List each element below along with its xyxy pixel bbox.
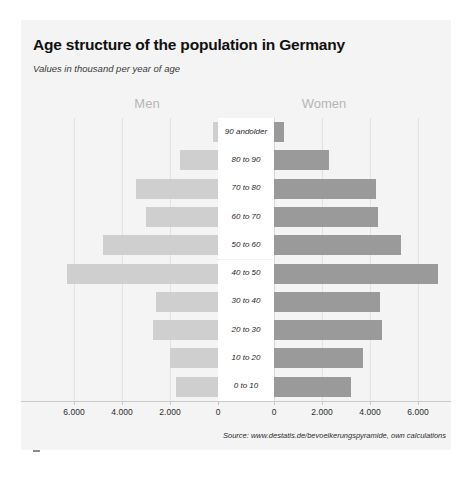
age-band-label: 10 to 20 [218,344,274,372]
age-band-label: 90 andolder [218,118,274,146]
pyramid-row: 40 to 50 [21,260,451,288]
x-axis-tick-label: 4.000 [111,407,132,417]
pyramid-row: 0 to 10 [21,373,451,401]
age-band-label: 0 to 10 [218,373,274,401]
population-pyramid-figure: Age structure of the population in Germa… [0,0,472,491]
x-axis-tick [274,401,275,405]
bar-women [274,377,351,397]
bar-men [67,264,218,284]
pyramid-row: 60 to 70 [21,203,451,231]
men-column-header: Men [134,96,159,111]
pyramid-row: 80 to 90 [21,146,451,174]
bar-men [180,150,218,170]
bar-women [274,292,380,312]
pyramid-row: 20 to 30 [21,316,451,344]
page-title: Age structure of the population in Germa… [33,36,345,54]
x-axis-line [21,401,451,402]
age-band-label: 20 to 30 [218,316,274,344]
bar-women [274,235,401,255]
x-axis-tick-label: 2.000 [311,407,332,417]
x-axis-tick [170,401,171,405]
x-axis-tick-label: 4.000 [359,407,380,417]
pyramid-row: 90 andolder [21,118,451,146]
x-axis-tick [370,401,371,405]
bar-men [136,179,218,199]
age-band-label: 50 to 60 [218,231,274,259]
bar-men [176,377,218,397]
bar-men [153,320,218,340]
pyramid-row: 70 to 80 [21,175,451,203]
x-axis-tick [122,401,123,405]
bar-men [156,292,218,312]
corner-mark [33,450,40,452]
x-axis-tick [74,401,75,405]
bar-women [274,264,438,284]
x-axis-tick-label: 0 [272,407,277,417]
age-band-label: 80 to 90 [218,146,274,174]
bar-women [274,348,363,368]
bar-women [274,320,382,340]
x-axis-tick [418,401,419,405]
x-axis-tick [218,401,219,405]
x-axis-tick-label: 6.000 [407,407,428,417]
age-band-label: 30 to 40 [218,288,274,316]
x-axis-tick [322,401,323,405]
age-band-label: 70 to 80 [218,175,274,203]
bar-women [274,179,376,199]
pyramid-row: 10 to 20 [21,344,451,372]
pyramid-row: 30 to 40 [21,288,451,316]
bar-women [274,150,329,170]
plot-area: 90 andolder80 to 9070 to 8060 to 7050 to… [21,118,451,401]
chart-subtitle: Values in thousand per year of age [33,63,180,74]
age-band-label: 40 to 50 [218,260,274,288]
bar-men [103,235,218,255]
x-axis-tick-label: 6.000 [63,407,84,417]
pyramid-row: 50 to 60 [21,231,451,259]
bar-men [146,207,218,227]
bar-women [274,207,378,227]
x-axis-tick-label: 0 [216,407,221,417]
bar-men [170,348,218,368]
bar-women [274,122,284,142]
source-note: Source: www.destatis.de/bevoelkerungspyr… [223,431,446,440]
age-band-label: 60 to 70 [218,203,274,231]
x-axis-tick-label: 2.000 [159,407,180,417]
women-column-header: Women [302,96,347,111]
